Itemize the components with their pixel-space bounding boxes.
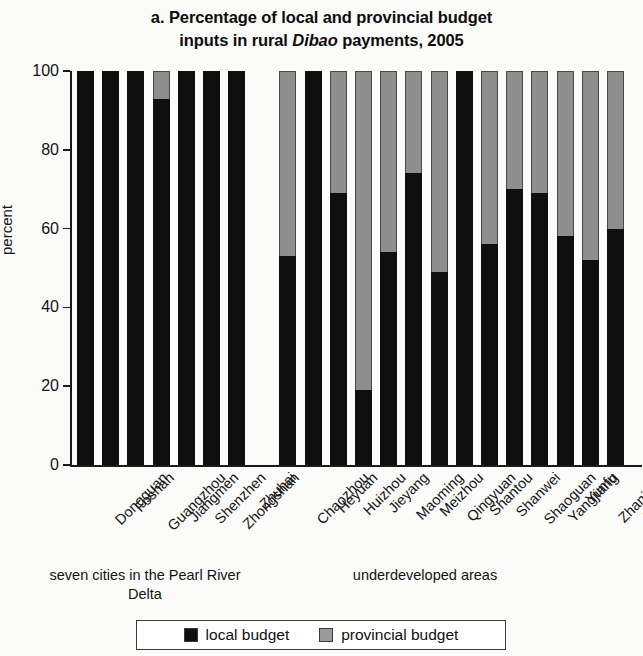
bar-heyuan <box>305 71 322 465</box>
bar-shantou <box>456 71 473 465</box>
chart-title-emphasis: Dibao <box>292 31 337 49</box>
bar-segment-local <box>102 71 119 465</box>
bar-segment-local <box>380 252 397 465</box>
bar-segment-local <box>153 99 170 465</box>
bar-segment-local <box>431 272 448 465</box>
legend-item-provincial-budget: provincial budget <box>319 626 458 644</box>
bar-segment-local <box>279 256 296 465</box>
chart-title-line2: inputs in rural Dibao payments, 2005 <box>0 29 643 52</box>
bar-meizhou <box>405 71 422 465</box>
bar-segment-local <box>355 390 372 465</box>
y-axis-tick-mark <box>63 464 70 466</box>
bar-segment-local <box>178 71 195 465</box>
bar-segment-local <box>531 193 548 465</box>
bar-zhanjiang <box>582 71 599 465</box>
bar-zhongshan <box>203 71 220 465</box>
bar-jiangmen <box>153 71 170 465</box>
y-axis-tick-mark <box>63 228 70 230</box>
bar-zhaoqing <box>607 71 624 465</box>
bar-shenzhen <box>178 71 195 465</box>
group-caption-pearl-river-delta: seven cities in the Pearl River Delta <box>40 566 250 604</box>
bar-segment-local <box>582 260 599 465</box>
y-axis-tick-label: 100 <box>32 60 59 82</box>
y-axis-label: percent <box>0 205 15 255</box>
y-axis-tick-label: 0 <box>50 454 59 476</box>
bar-zhuhai <box>228 71 245 465</box>
bar-shaoguan <box>506 71 523 465</box>
y-axis-tick-mark <box>63 70 70 72</box>
bar-segment-local <box>607 229 624 465</box>
bar-huizhou <box>330 71 347 465</box>
bar-chaozhou <box>279 71 296 465</box>
legend-label-provincial-budget: provincial budget <box>341 626 458 644</box>
bar-foshan <box>102 71 119 465</box>
bar-segment-local <box>203 71 220 465</box>
bar-segment-local <box>127 71 144 465</box>
legend-label-local-budget: local budget <box>206 626 290 644</box>
bar-jieyang <box>355 71 372 465</box>
bar-segment-local <box>405 173 422 465</box>
legend-item-local-budget: local budget <box>184 626 290 644</box>
legend-swatch-local-icon <box>184 628 198 642</box>
chart-legend: local budget provincial budget <box>136 620 506 650</box>
bar-segment-local <box>77 71 94 465</box>
bar-maoming <box>380 71 397 465</box>
chart-figure: a. Percentage of local and provincial bu… <box>0 0 643 656</box>
bar-yangjiang <box>531 71 548 465</box>
bar-segment-provincial <box>380 71 397 252</box>
chart-title-line2-pre: inputs in rural <box>179 31 292 49</box>
bar-segment-provincial <box>153 71 170 99</box>
bar-segment-local <box>557 236 574 465</box>
bar-segment-provincial <box>431 71 448 272</box>
bar-segment-provincial <box>506 71 523 189</box>
y-axis-tick-mark <box>63 385 70 387</box>
bar-segment-provincial <box>405 71 422 173</box>
bar-segment-local <box>481 244 498 465</box>
bar-segment-local <box>228 71 245 465</box>
bar-segment-provincial <box>531 71 548 193</box>
bar-segment-provincial <box>355 71 372 390</box>
bar-segment-provincial <box>557 71 574 236</box>
bar-segment-provincial <box>582 71 599 260</box>
y-axis-tick-label: 60 <box>41 218 59 240</box>
y-axis-tick-mark <box>63 149 70 151</box>
bar-shanwei <box>481 71 498 465</box>
chart-title: a. Percentage of local and provincial bu… <box>0 6 643 52</box>
bar-segment-local <box>330 193 347 465</box>
x-axis-tick-labels: DongguanFoshanGuangzhouJiangmenShenzhenZ… <box>70 466 642 556</box>
x-axis-label-zhanjiang: Zhanjiang <box>616 470 643 526</box>
group-caption-underdeveloped-areas: underdeveloped areas <box>300 566 550 585</box>
bar-dongguan <box>77 71 94 465</box>
chart-title-line2-post: payments, 2005 <box>338 31 464 49</box>
chart-title-line1: a. Percentage of local and provincial bu… <box>151 8 492 26</box>
bar-segment-provincial <box>330 71 347 193</box>
bar-yunfu <box>557 71 574 465</box>
y-axis-tick-mark <box>63 307 70 309</box>
y-axis-tick-label: 80 <box>41 139 59 161</box>
bar-segment-provincial <box>607 71 624 229</box>
y-axis-tick-label: 40 <box>41 296 59 318</box>
bar-segment-provincial <box>481 71 498 244</box>
y-axis-tick-label: 20 <box>41 375 59 397</box>
bar-segment-local <box>456 71 473 465</box>
plot-area <box>70 71 642 465</box>
bar-segment-local <box>506 189 523 465</box>
bar-guangzhou <box>127 71 144 465</box>
bar-segment-provincial <box>279 71 296 256</box>
bar-segment-local <box>305 71 322 465</box>
legend-swatch-provincial-icon <box>319 628 333 642</box>
bar-qingyuan <box>431 71 448 465</box>
